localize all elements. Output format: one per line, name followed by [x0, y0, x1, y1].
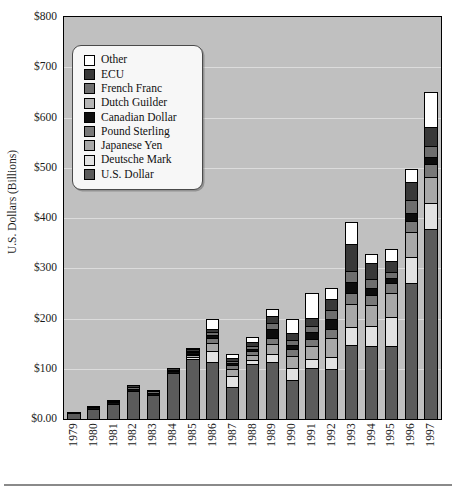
y-axis-tick-label: $800	[34, 10, 57, 22]
bar-segment	[365, 305, 378, 326]
bar-segment	[107, 401, 120, 402]
bar-segment	[186, 355, 199, 357]
bar-segment	[305, 339, 318, 346]
bar-segment	[365, 279, 378, 288]
legend-swatch-icon	[84, 112, 95, 123]
legend-item: Dutch Guilder	[73, 96, 202, 110]
bar-segment	[345, 244, 358, 272]
x-axis-tick-label: 1993	[345, 423, 357, 447]
bar-segment	[147, 395, 160, 419]
bar-stack	[365, 254, 378, 419]
y-axis-tick-label: $500	[34, 161, 57, 173]
legend-item-label: ECU	[101, 69, 124, 81]
bar-segment	[167, 368, 180, 370]
legend-item: French Franc	[73, 82, 202, 96]
bar-segment	[67, 413, 80, 419]
bar-segment	[246, 349, 259, 351]
bar-segment	[186, 357, 199, 359]
bar-stack	[424, 92, 437, 419]
bar-segment	[226, 369, 239, 376]
bar-segment	[246, 355, 259, 360]
bar-segment	[127, 385, 140, 387]
bar-segment	[87, 409, 100, 419]
bar-segment	[405, 182, 418, 200]
x-axis-tick-label: 1992	[325, 423, 337, 447]
y-axis-title: U.S. Dollars (Billions)	[6, 102, 18, 302]
bar-segment	[246, 351, 259, 355]
x-axis-tick-label: 1991	[305, 423, 317, 447]
bar-segment	[266, 329, 279, 338]
bar-segment	[345, 271, 358, 282]
bar-segment	[206, 319, 219, 329]
bar-segment	[385, 346, 398, 419]
bar-segment	[305, 359, 318, 368]
bar-stack	[246, 337, 259, 419]
bar-segment	[424, 164, 437, 177]
legend-swatch-icon	[84, 83, 95, 94]
bar-segment	[305, 368, 318, 419]
x-axis-tick-label: 1997	[424, 423, 436, 447]
bar-segment	[385, 283, 398, 293]
bar-segment	[226, 358, 239, 361]
bar-segment	[424, 177, 437, 203]
bar-segment	[424, 203, 437, 229]
bar-segment	[305, 326, 318, 332]
bar-segment	[286, 356, 299, 368]
bar-segment	[87, 406, 100, 407]
bar-segment	[305, 318, 318, 326]
legend-item-label: Other	[101, 54, 127, 66]
x-axis-tick-label: 1984	[166, 423, 178, 447]
legend-swatch-icon	[84, 140, 95, 151]
legend-swatch-icon	[84, 155, 95, 166]
bar-segment	[365, 288, 378, 295]
bar-stack	[345, 222, 358, 419]
bar-stack	[385, 249, 398, 419]
x-axis-tick-label: 1996	[404, 423, 416, 447]
bar-segment	[345, 282, 358, 293]
legend-item: Japanese Yen	[73, 139, 202, 153]
legend-item-label: U.S. Dollar	[101, 169, 154, 181]
bar-stack	[107, 400, 120, 419]
x-axis-tick-label: 1981	[107, 423, 119, 447]
bar-segment	[325, 319, 338, 329]
legend-item-label: French Franc	[101, 83, 162, 95]
bar-stack	[186, 348, 199, 419]
bar-segment	[186, 349, 199, 351]
bar-segment	[325, 369, 338, 419]
bar-segment	[385, 293, 398, 317]
bar-segment	[246, 337, 259, 342]
bar-segment	[385, 317, 398, 346]
bar-segment	[385, 278, 398, 283]
bar-stack	[266, 309, 279, 419]
x-axis: 1979198019811982198319841985198619871988…	[63, 421, 442, 477]
y-axis-tick-label: $100	[34, 362, 57, 374]
bar-segment	[206, 338, 219, 343]
bar-segment	[325, 310, 338, 318]
bar-segment	[325, 299, 338, 310]
legend-item: ECU	[73, 67, 202, 81]
bar-segment	[385, 272, 398, 278]
bar-segment	[405, 213, 418, 221]
bar-stack	[305, 293, 318, 419]
x-axis-tick-label: 1990	[285, 423, 297, 447]
legend-swatch-icon	[84, 126, 95, 137]
bar-stack	[226, 354, 239, 419]
legend-item: Other	[73, 53, 202, 67]
bar-segment	[365, 346, 378, 419]
x-axis-tick-label: 1989	[265, 423, 277, 447]
bar-segment	[186, 354, 199, 356]
bar-segment	[405, 200, 418, 213]
bar-segment	[385, 261, 398, 272]
bar-stack	[206, 319, 219, 420]
legend-swatch-icon	[84, 169, 95, 180]
bar-segment	[325, 288, 338, 300]
y-axis-tick-label: $700	[34, 60, 57, 72]
bar-segment	[127, 391, 140, 419]
bar-segment	[266, 344, 279, 355]
x-axis-tick-label: 1985	[186, 423, 198, 447]
bar-segment	[167, 370, 180, 372]
bar-segment	[186, 352, 199, 354]
bar-segment	[365, 295, 378, 305]
bar-segment	[206, 329, 219, 333]
x-axis-tick-label: 1995	[384, 423, 396, 447]
